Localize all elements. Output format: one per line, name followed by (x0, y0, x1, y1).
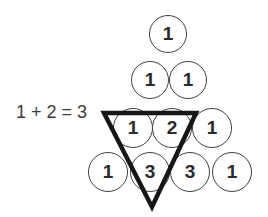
number-circle: 1 (131, 61, 169, 99)
circle-value: 2 (167, 117, 178, 139)
number-circle: 1 (88, 152, 128, 192)
number-circle: 1 (212, 152, 252, 192)
pascals-triangle-diagram: 1 + 2 = 3 1 1 1 1 2 1 1 3 3 1 (0, 0, 268, 217)
circle-value: 1 (163, 23, 174, 45)
circle-value: 1 (207, 117, 218, 139)
number-circle: 1 (113, 108, 153, 148)
circle-value: 3 (145, 161, 156, 183)
number-circle: 1 (192, 108, 232, 148)
number-circle: 3 (130, 152, 170, 192)
circle-value: 3 (185, 161, 196, 183)
circle-value: 1 (145, 69, 156, 91)
equation-label: 1 + 2 = 3 (16, 102, 87, 123)
number-circle: 1 (149, 15, 187, 53)
number-circle: 1 (169, 61, 207, 99)
circle-value: 1 (128, 117, 139, 139)
circle-value: 1 (227, 161, 238, 183)
circle-value: 1 (183, 69, 194, 91)
number-circle: 2 (152, 108, 192, 148)
circle-value: 1 (103, 161, 114, 183)
number-circle: 3 (170, 152, 210, 192)
